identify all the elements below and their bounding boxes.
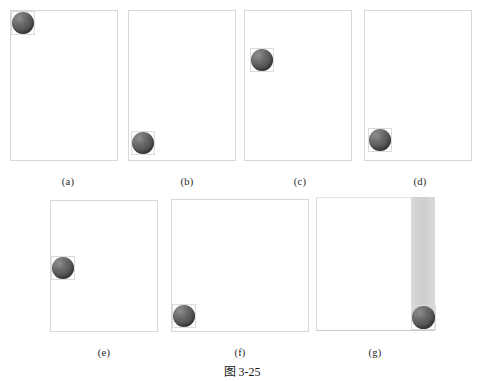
panel-label-e: (e) [98, 347, 110, 359]
ball-marker-panel-c [250, 48, 274, 72]
ball-panel-c [251, 49, 273, 71]
panel-label-f: (f) [234, 347, 245, 359]
ball-panel-f [173, 305, 195, 327]
figure-caption-cn: 图 [224, 365, 236, 379]
ball-marker-panel-e [51, 256, 75, 280]
panel-label-a: (a) [62, 176, 74, 188]
grey-bar-panel-g [411, 197, 435, 317]
ball-marker-panel-a [11, 11, 35, 35]
panel-c [244, 10, 352, 161]
ball-panel-e [52, 257, 74, 279]
ball-panel-a [12, 12, 34, 34]
ball-marker-panel-b [131, 131, 155, 155]
ball-panel-b [132, 132, 154, 154]
ball-marker-panel-d [368, 128, 392, 152]
figure-caption: 图 3-25 [224, 365, 261, 379]
ball-panel-d [369, 129, 391, 151]
ball-marker-panel-f [172, 304, 196, 328]
figure-caption-number: 3-25 [236, 365, 261, 379]
panel-label-g: (g) [369, 347, 382, 359]
ball-marker-panel-g [411, 305, 436, 330]
panel-label-c: (c) [294, 176, 306, 188]
panel-label-d: (d) [414, 176, 427, 188]
figure-3-25: (a)(b)(c)(d)(e)(f)(g)图 3-25 [0, 0, 484, 381]
panel-label-b: (b) [181, 176, 194, 188]
ball-panel-g [412, 306, 435, 329]
